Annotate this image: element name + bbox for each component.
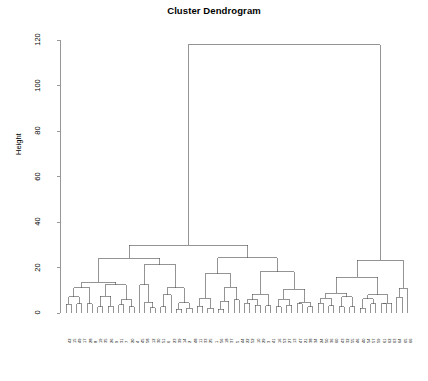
cluster-dendrogram-plot: Cluster Dendrogram Height 02040608010012… [0,0,428,381]
leaf-label: 25 [209,339,213,343]
leaf-label: 64 [398,339,402,343]
leaf-label: 59 [377,339,381,343]
leaf-label: 10 [257,339,261,343]
leaf-label: 61 [383,339,387,343]
leaf-label: 2 [188,341,192,343]
leaf-label: 17 [83,339,87,343]
leaf-label: 7 [125,341,129,343]
leaf-label: 37 [230,339,234,343]
leaf-label: 13 [293,339,297,343]
leaf-label: 46 [356,339,360,343]
leaf-label: 1 [215,341,219,343]
leaf-label: 20 [131,339,135,343]
leaf-label: 41 [272,339,276,343]
leaf-label: 66 [409,339,413,343]
leaf-label: 52 [251,339,255,343]
leaf-label: 42 [68,339,72,343]
leaf-label: 65 [404,339,408,343]
leaf-label: 5 [236,341,240,343]
leaf-label: 28 [89,339,93,343]
leaf-label: 40 [362,339,366,343]
leaf-label: 6 [167,341,171,343]
leaf-label: 23 [173,339,177,343]
leaf-label: 48 [194,339,198,343]
leaf-label: 26 [110,339,114,343]
dendrogram-canvas [0,0,428,381]
leaf-label: 47 [299,339,303,343]
leaf-label: 16 [278,339,282,343]
leaf-label: 12 [152,339,156,343]
leaf-label: 24 [320,339,324,343]
leaf-label: 34 [314,339,318,343]
leaf-label: 35 [104,339,108,343]
leaf-label: 43 [341,339,345,343]
leaf-label: 58 [146,339,150,343]
leaf-label: 60 [335,339,339,343]
